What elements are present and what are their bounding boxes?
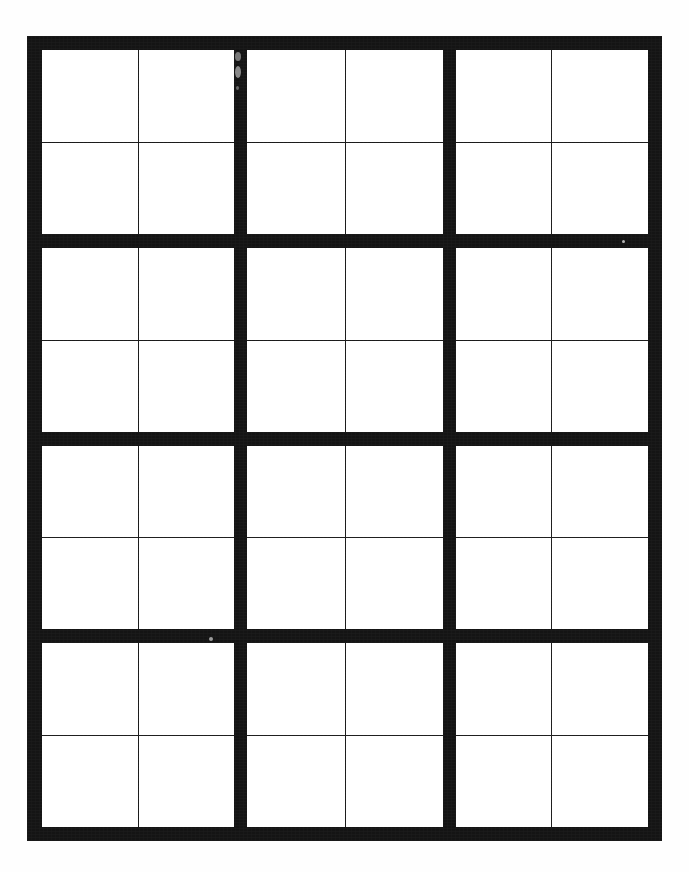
cell-row xyxy=(42,248,234,340)
cell-row xyxy=(456,340,648,432)
grid-cell[interactable] xyxy=(456,142,552,234)
block-r2c1[interactable] xyxy=(42,248,234,432)
grid-cell[interactable] xyxy=(42,537,138,629)
grid-cell[interactable] xyxy=(456,340,552,432)
cell-row xyxy=(247,340,443,432)
cell-row xyxy=(42,537,234,629)
cell-row xyxy=(247,537,443,629)
grid-cell[interactable] xyxy=(456,248,552,340)
cell-row xyxy=(42,643,234,735)
cell-row xyxy=(247,248,443,340)
grid-cell[interactable] xyxy=(345,50,443,142)
cell-row xyxy=(42,735,234,827)
cell-row xyxy=(456,248,648,340)
grid-cell[interactable] xyxy=(42,446,138,538)
block-r3c2[interactable] xyxy=(247,446,443,630)
grid-cell[interactable] xyxy=(138,142,235,234)
footer-text xyxy=(56,861,286,872)
grid-cell[interactable] xyxy=(456,50,552,142)
grid-cell[interactable] xyxy=(42,248,138,340)
grid-cell[interactable] xyxy=(456,537,552,629)
block-r4c2[interactable] xyxy=(247,643,443,827)
grid-cell[interactable] xyxy=(345,142,443,234)
grid-cell[interactable] xyxy=(345,537,443,629)
grid-cell[interactable] xyxy=(138,50,235,142)
grid-table xyxy=(27,36,662,841)
grid-cell[interactable] xyxy=(551,446,648,538)
grid-cell[interactable] xyxy=(138,735,235,827)
cell-row xyxy=(456,446,648,538)
grid-cell[interactable] xyxy=(551,142,648,234)
cell-row xyxy=(42,50,234,142)
grid-cell[interactable] xyxy=(345,643,443,735)
block-r3c1[interactable] xyxy=(42,446,234,630)
cell-row xyxy=(456,735,648,827)
cell-row xyxy=(42,142,234,234)
grid-cell[interactable] xyxy=(345,735,443,827)
grid-cell[interactable] xyxy=(551,248,648,340)
scanned-page xyxy=(0,0,689,872)
grid-blocks-container xyxy=(27,36,662,841)
cell-row xyxy=(247,735,443,827)
grid-cell[interactable] xyxy=(247,142,344,234)
grid-cell[interactable] xyxy=(247,248,344,340)
grid-cell[interactable] xyxy=(42,340,138,432)
block-r1c2[interactable] xyxy=(247,50,443,234)
block-r4c3[interactable] xyxy=(456,643,648,827)
grid-cell[interactable] xyxy=(42,735,138,827)
grid-cell[interactable] xyxy=(42,643,138,735)
block-r1c1[interactable] xyxy=(42,50,234,234)
cell-row xyxy=(247,50,443,142)
grid-cell[interactable] xyxy=(138,643,235,735)
grid-cell[interactable] xyxy=(551,537,648,629)
grid-cell[interactable] xyxy=(138,248,235,340)
grid-cell[interactable] xyxy=(247,643,344,735)
block-row-1 xyxy=(42,50,648,234)
grid-cell[interactable] xyxy=(247,446,344,538)
block-row-4 xyxy=(42,643,648,827)
grid-cell[interactable] xyxy=(551,50,648,142)
block-r2c2[interactable] xyxy=(247,248,443,432)
grid-cell[interactable] xyxy=(138,340,235,432)
cell-row xyxy=(247,142,443,234)
block-r3c3[interactable] xyxy=(456,446,648,630)
grid-cell[interactable] xyxy=(247,735,344,827)
grid-cell[interactable] xyxy=(345,446,443,538)
block-r2c3[interactable] xyxy=(456,248,648,432)
grid-cell[interactable] xyxy=(138,446,235,538)
grid-cell[interactable] xyxy=(42,142,138,234)
cell-row xyxy=(247,446,443,538)
cell-row xyxy=(456,142,648,234)
grid-cell[interactable] xyxy=(456,643,552,735)
grid-cell[interactable] xyxy=(551,643,648,735)
grid-cell[interactable] xyxy=(551,340,648,432)
block-row-3 xyxy=(42,446,648,630)
grid-cell[interactable] xyxy=(456,735,552,827)
grid-cell[interactable] xyxy=(247,340,344,432)
grid-cell[interactable] xyxy=(247,50,344,142)
cell-row xyxy=(42,446,234,538)
block-r4c1[interactable] xyxy=(42,643,234,827)
cell-row xyxy=(456,537,648,629)
header-text xyxy=(236,0,496,3)
grid-cell[interactable] xyxy=(345,248,443,340)
grid-cell[interactable] xyxy=(138,537,235,629)
grid-cell[interactable] xyxy=(456,446,552,538)
cell-row xyxy=(456,643,648,735)
grid-cell[interactable] xyxy=(42,50,138,142)
block-r1c3[interactable] xyxy=(456,50,648,234)
grid-cell[interactable] xyxy=(247,537,344,629)
grid-cell[interactable] xyxy=(345,340,443,432)
grid-cell[interactable] xyxy=(551,735,648,827)
cell-row xyxy=(456,50,648,142)
cell-row xyxy=(42,340,234,432)
cell-row xyxy=(247,643,443,735)
block-row-2 xyxy=(42,248,648,432)
